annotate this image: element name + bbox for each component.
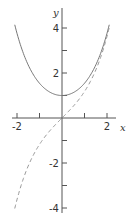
x-tick-label: 2 <box>104 121 110 132</box>
x-axis-label: x <box>120 122 126 133</box>
y-tick-label: -4 <box>49 203 59 214</box>
axes <box>12 8 116 213</box>
chart: -22-4-224 x y <box>0 0 136 224</box>
x-tick-label: -2 <box>12 121 22 132</box>
y-tick-label: 4 <box>53 23 59 34</box>
y-axis-label: y <box>52 7 59 18</box>
y-tick-label: 2 <box>53 68 59 79</box>
y-tick-label: -2 <box>49 158 59 169</box>
